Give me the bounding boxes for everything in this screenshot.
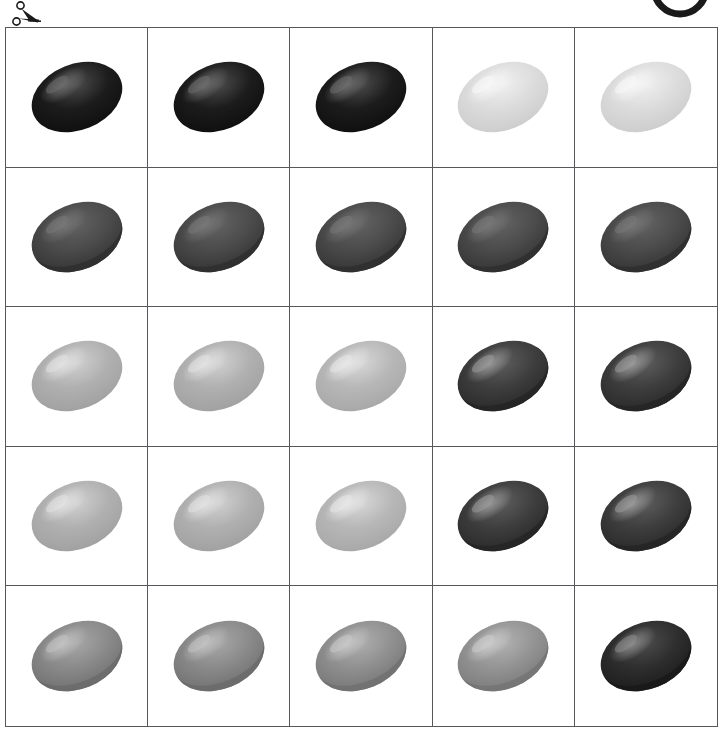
grid-cell [6, 28, 148, 168]
grid-cell [6, 586, 148, 726]
blob-r4c3 [301, 462, 421, 570]
blob-r1c4 [443, 43, 563, 151]
blob-r5c5 [586, 602, 706, 710]
top-decoration-strip [0, 0, 725, 28]
grid-cell [433, 307, 575, 447]
grid-cell [290, 586, 432, 726]
blob-r3c5 [586, 322, 706, 430]
blob-r5c1 [17, 602, 137, 710]
grid-cell [575, 586, 717, 726]
grid-cell [6, 447, 148, 587]
grid-cell [290, 447, 432, 587]
grid-cell [6, 168, 148, 308]
grid-cell [433, 586, 575, 726]
grid-cell [290, 28, 432, 168]
blob-r4c1 [17, 462, 137, 570]
grid-cell [148, 168, 290, 308]
blob-r2c1 [17, 183, 137, 291]
blob-r3c2 [159, 322, 279, 430]
blob-r1c5 [586, 43, 706, 151]
grid-cell [148, 307, 290, 447]
blob-grid [5, 27, 718, 727]
grid-cell [290, 168, 432, 308]
grid-cell [575, 307, 717, 447]
grid-cell [575, 447, 717, 587]
grid-cell [148, 447, 290, 587]
grid-cell [433, 28, 575, 168]
partial-circle-arc-icon [640, 0, 720, 24]
grid-cell [148, 28, 290, 168]
blob-r3c4 [443, 322, 563, 430]
blob-r5c3 [301, 602, 421, 710]
blob-r2c2 [159, 183, 279, 291]
grid-cell [433, 168, 575, 308]
grid-cell [575, 28, 717, 168]
grid-cell [148, 586, 290, 726]
blob-r4c4 [443, 462, 563, 570]
page-root [0, 0, 725, 734]
blob-r1c2 [159, 43, 279, 151]
blob-r5c2 [159, 602, 279, 710]
blob-r1c3 [301, 43, 421, 151]
scissors-icon [8, 0, 56, 28]
blob-r3c1 [17, 322, 137, 430]
grid-cell [6, 307, 148, 447]
blob-r2c5 [586, 183, 706, 291]
blob-r2c4 [443, 183, 563, 291]
blob-r3c3 [301, 322, 421, 430]
grid-cell [290, 307, 432, 447]
blob-r2c3 [301, 183, 421, 291]
blob-r4c2 [159, 462, 279, 570]
blob-r1c1 [17, 43, 137, 151]
grid-cell [433, 447, 575, 587]
grid-cell [575, 168, 717, 308]
blob-r5c4 [443, 602, 563, 710]
blob-r4c5 [586, 462, 706, 570]
